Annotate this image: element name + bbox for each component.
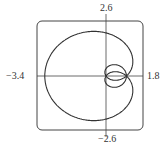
- y-max-label: 2.6: [100, 2, 113, 13]
- plot-area: [0, 0, 166, 146]
- polar-plot: 2.6 −2.6 −3.4 1.8: [0, 0, 166, 146]
- y-min-label: −2.6: [98, 133, 116, 144]
- x-min-label: −3.4: [6, 70, 24, 81]
- x-max-label: 1.8: [147, 70, 160, 81]
